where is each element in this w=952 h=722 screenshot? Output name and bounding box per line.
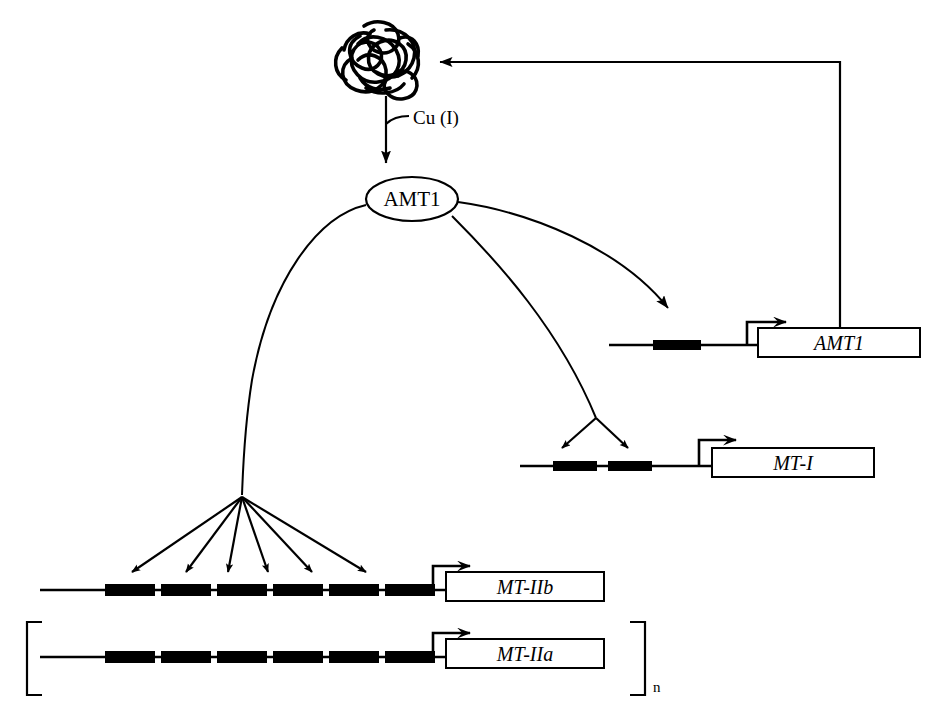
gene-locus-mt-i bbox=[520, 418, 874, 477]
amt1-factor-label: AMT1 bbox=[383, 187, 440, 211]
gene-label-amt1: AMT1 bbox=[812, 332, 864, 354]
binding-site-bar bbox=[273, 651, 323, 663]
branch-to-mt-i bbox=[452, 216, 596, 418]
repeat-bracket-left bbox=[27, 622, 42, 695]
binding-site-bar bbox=[217, 584, 267, 596]
gene-label-mt-i: MT-I bbox=[772, 452, 814, 474]
binding-site-bar bbox=[217, 651, 267, 663]
binding-site-bar bbox=[105, 584, 155, 596]
binding-site-bar bbox=[608, 461, 652, 471]
repeat-bracket-right bbox=[630, 622, 645, 695]
gene-locus-amt1 bbox=[609, 322, 920, 357]
cu-hook-connector bbox=[386, 116, 409, 124]
binding-site-bar bbox=[329, 651, 379, 663]
binding-site-bar bbox=[385, 584, 435, 596]
binding-site-bar bbox=[161, 584, 211, 596]
repeat-subscript-n: n bbox=[653, 679, 661, 695]
cu-ligand-label: Cu (I) bbox=[413, 107, 459, 129]
gene-label-mt-iia: MT-IIa bbox=[496, 643, 553, 665]
binding-site-bar bbox=[553, 461, 597, 471]
branch-to-mt-iib bbox=[242, 205, 366, 495]
amt1-feedback-loop bbox=[440, 62, 840, 328]
binding-site-bar bbox=[105, 651, 155, 663]
pathway-canvas: AMT1 Cu (I) AMT1 MT-I MT-IIb MT-IIa n bbox=[0, 0, 952, 722]
binding-site-bar bbox=[329, 584, 379, 596]
pathway-diagram: AMT1 Cu (I) AMT1 MT-I MT-IIb MT-IIa n bbox=[0, 0, 952, 722]
binding-site-bar bbox=[653, 340, 701, 350]
binding-site-bar bbox=[273, 584, 323, 596]
binding-site-bar bbox=[385, 651, 435, 663]
gene-label-mt-iib: MT-IIb bbox=[496, 576, 553, 598]
binding-site-bar bbox=[161, 651, 211, 663]
apo-protein-blob bbox=[336, 22, 419, 99]
